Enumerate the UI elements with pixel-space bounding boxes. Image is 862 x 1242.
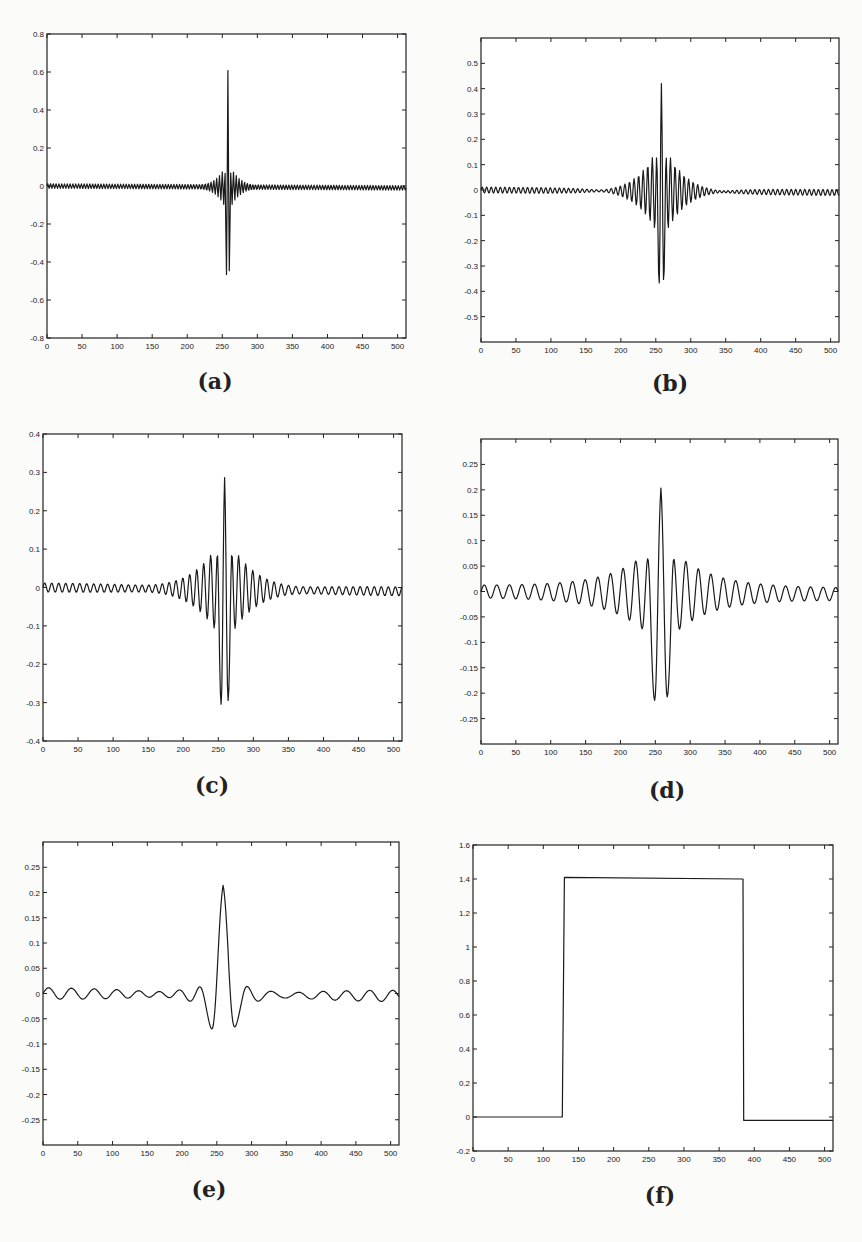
x-tick-label: 350 <box>712 1155 726 1164</box>
y-tick-label: 0.8 <box>459 977 471 986</box>
y-tick-label: 1.2 <box>459 909 471 918</box>
y-tick-label: 1.4 <box>459 875 471 884</box>
caption-f: (f) <box>645 1182 675 1208</box>
y-tick-label: 0.6 <box>459 1011 471 1020</box>
plot-area-f: 050100150200250300350400450500-0.200.20.… <box>0 0 862 1242</box>
x-tick-label: 450 <box>783 1155 797 1164</box>
y-tick-label: 1.6 <box>459 841 471 850</box>
subplot-f: 050100150200250300350400450500-0.200.20.… <box>0 0 862 1242</box>
x-tick-label: 200 <box>607 1155 621 1164</box>
x-tick-label: 150 <box>572 1155 586 1164</box>
y-tick-label: 1 <box>466 943 471 952</box>
x-tick-label: 300 <box>677 1155 691 1164</box>
y-tick-label: 0 <box>466 1113 471 1122</box>
x-tick-label: 250 <box>642 1155 656 1164</box>
y-tick-label: 0.2 <box>459 1079 471 1088</box>
x-tick-label: 50 <box>504 1155 513 1164</box>
axes-frame <box>473 845 833 1151</box>
x-tick-label: 100 <box>537 1155 551 1164</box>
y-tick-label: 0.4 <box>459 1045 471 1054</box>
x-tick-label: 500 <box>818 1155 832 1164</box>
y-tick-label: -0.2 <box>456 1147 470 1156</box>
x-tick-label: 400 <box>748 1155 762 1164</box>
x-tick-label: 0 <box>471 1155 476 1164</box>
